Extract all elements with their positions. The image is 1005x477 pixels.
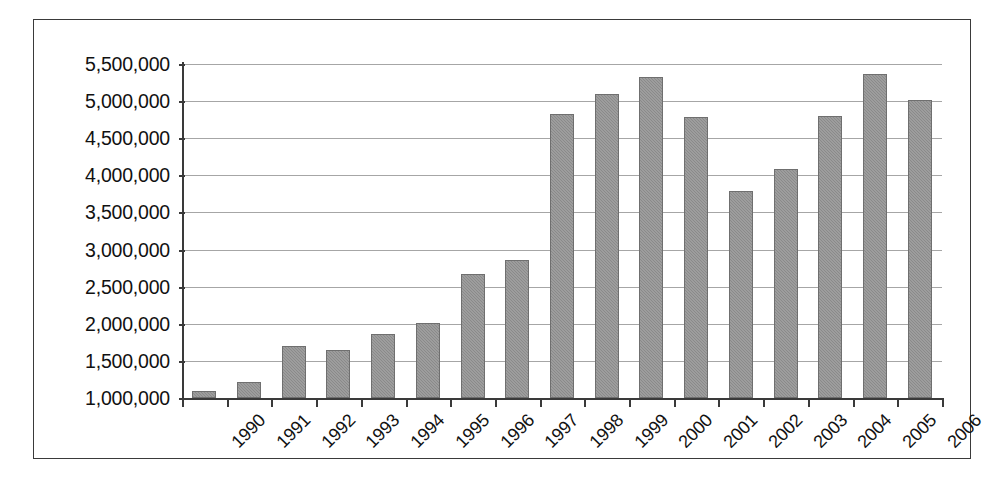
category-axis-tick-label: 2006 xyxy=(943,410,986,453)
category-axis-tick-label: 1995 xyxy=(451,410,494,453)
category-axis-tick-label: 1990 xyxy=(228,410,271,453)
category-axis-tick-label: 2005 xyxy=(898,410,941,453)
category-axis-tick-label: 2001 xyxy=(720,410,763,453)
value-axis-tick-label: 1,000,000 xyxy=(34,387,170,410)
value-axis-tick-label: 2,000,000 xyxy=(34,312,170,335)
category-axis-tick-label: 1993 xyxy=(362,410,405,453)
category-axis-tick-label: 1996 xyxy=(496,410,539,453)
category-axis-tick-label: 1999 xyxy=(630,410,673,453)
value-axis-tick-label: 3,000,000 xyxy=(34,238,170,261)
category-axis-tick-label: 1991 xyxy=(273,410,316,453)
value-axis-tick-label: 4,000,000 xyxy=(34,164,170,187)
category-axis-tick xyxy=(942,398,944,407)
chart-frame: 5,500,0005,000,0004,500,0004,000,0003,50… xyxy=(33,19,971,459)
value-axis-tick-label: 5,000,000 xyxy=(34,90,170,113)
value-axis-tick-label: 5,500,000 xyxy=(34,53,170,76)
category-axis-tick-label: 1994 xyxy=(407,410,450,453)
category-axis-labels: 1990199119921993199419951996199719981999… xyxy=(182,20,942,460)
value-axis-tick-label: 3,500,000 xyxy=(34,201,170,224)
category-axis-tick-label: 1997 xyxy=(541,410,584,453)
category-axis-tick-label: 2002 xyxy=(764,410,807,453)
value-axis-tick-label: 4,500,000 xyxy=(34,127,170,150)
category-axis-tick-label: 2003 xyxy=(809,410,852,453)
category-axis-tick-label: 1992 xyxy=(317,410,360,453)
category-axis-tick-label: 2000 xyxy=(675,410,718,453)
category-axis-tick-label: 1998 xyxy=(585,410,628,453)
category-axis-tick-label: 2004 xyxy=(854,410,897,453)
value-axis-tick-label: 1,500,000 xyxy=(34,349,170,372)
value-axis-tick-label: 2,500,000 xyxy=(34,275,170,298)
